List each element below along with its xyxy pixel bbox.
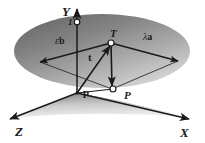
vector-diagram-figure: Y X Z 1 T P p t εb λa: [0, 0, 205, 143]
point-label-T: T: [110, 28, 117, 39]
node-T: [108, 40, 114, 46]
point-label-P: P: [124, 90, 131, 101]
diagram-canvas: [0, 0, 205, 143]
axis-label-x: X: [180, 126, 189, 139]
vector-label-t: t: [88, 52, 92, 63]
unit-mark-label: 1: [68, 18, 73, 27]
node-unit-on-y: [74, 19, 80, 25]
coefficient-label-lambda-a: λa: [143, 32, 152, 42]
basis-vector-a: a: [147, 31, 152, 42]
t-to-p-drop-line: [111, 44, 112, 86]
basis-vector-b: b: [59, 35, 65, 46]
spanning-plane-ellipse: [14, 14, 190, 88]
node-P: [110, 86, 116, 92]
position-vector-label-p: p: [83, 87, 89, 98]
axis-label-z: Z: [15, 125, 23, 138]
node-origin: [75, 91, 78, 94]
coefficient-label-epsilon-b: εb: [55, 36, 65, 46]
ground-plane-shading: [12, 93, 186, 118]
